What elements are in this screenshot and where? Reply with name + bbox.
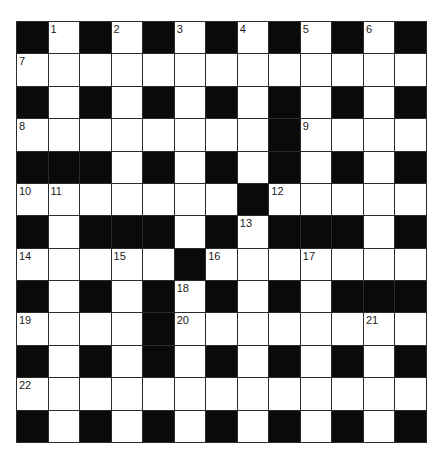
answer-cell[interactable]: 7 (17, 54, 48, 85)
answer-cell[interactable] (49, 346, 80, 377)
answer-cell[interactable]: 14 (17, 249, 48, 280)
answer-cell[interactable] (301, 346, 332, 377)
answer-cell[interactable]: 6 (364, 22, 395, 53)
answer-cell[interactable] (332, 313, 363, 344)
answer-cell[interactable] (49, 54, 80, 85)
answer-cell[interactable]: 16 (206, 249, 237, 280)
answer-cell[interactable] (143, 378, 174, 409)
answer-cell[interactable] (238, 87, 269, 118)
answer-cell[interactable] (112, 184, 143, 215)
answer-cell[interactable] (238, 119, 269, 150)
answer-cell[interactable] (80, 54, 111, 85)
answer-cell[interactable] (364, 54, 395, 85)
answer-cell[interactable] (238, 152, 269, 183)
answer-cell[interactable] (49, 411, 80, 442)
answer-cell[interactable]: 10 (17, 184, 48, 215)
answer-cell[interactable]: 11 (49, 184, 80, 215)
answer-cell[interactable] (364, 119, 395, 150)
answer-cell[interactable] (364, 87, 395, 118)
answer-cell[interactable] (364, 152, 395, 183)
answer-cell[interactable] (112, 378, 143, 409)
answer-cell[interactable] (206, 54, 237, 85)
answer-cell[interactable]: 4 (238, 22, 269, 53)
answer-cell[interactable] (301, 54, 332, 85)
answer-cell[interactable]: 18 (175, 281, 206, 312)
answer-cell[interactable]: 8 (17, 119, 48, 150)
answer-cell[interactable] (301, 87, 332, 118)
answer-cell[interactable] (301, 281, 332, 312)
answer-cell[interactable] (364, 184, 395, 215)
answer-cell[interactable]: 5 (301, 22, 332, 53)
answer-cell[interactable] (269, 378, 300, 409)
answer-cell[interactable]: 1 (49, 22, 80, 53)
answer-cell[interactable] (49, 378, 80, 409)
answer-cell[interactable] (269, 54, 300, 85)
answer-cell[interactable] (301, 184, 332, 215)
answer-cell[interactable] (175, 87, 206, 118)
answer-cell[interactable] (175, 216, 206, 247)
answer-cell[interactable] (206, 378, 237, 409)
answer-cell[interactable] (112, 152, 143, 183)
answer-cell[interactable] (238, 54, 269, 85)
answer-cell[interactable] (238, 249, 269, 280)
answer-cell[interactable] (332, 184, 363, 215)
answer-cell[interactable] (395, 54, 426, 85)
answer-cell[interactable] (301, 411, 332, 442)
answer-cell[interactable] (175, 378, 206, 409)
answer-cell[interactable] (395, 119, 426, 150)
answer-cell[interactable]: 15 (112, 249, 143, 280)
answer-cell[interactable] (49, 313, 80, 344)
answer-cell[interactable] (395, 184, 426, 215)
answer-cell[interactable] (80, 119, 111, 150)
answer-cell[interactable] (332, 119, 363, 150)
answer-cell[interactable] (80, 378, 111, 409)
answer-cell[interactable] (301, 378, 332, 409)
answer-cell[interactable] (332, 54, 363, 85)
answer-cell[interactable]: 13 (238, 216, 269, 247)
answer-cell[interactable] (238, 378, 269, 409)
answer-cell[interactable] (80, 249, 111, 280)
answer-cell[interactable] (364, 216, 395, 247)
answer-cell[interactable] (364, 249, 395, 280)
answer-cell[interactable] (143, 119, 174, 150)
answer-cell[interactable] (301, 152, 332, 183)
answer-cell[interactable]: 22 (17, 378, 48, 409)
answer-cell[interactable] (238, 313, 269, 344)
answer-cell[interactable]: 21 (364, 313, 395, 344)
answer-cell[interactable] (175, 184, 206, 215)
answer-cell[interactable]: 12 (269, 184, 300, 215)
answer-cell[interactable] (332, 249, 363, 280)
answer-cell[interactable] (206, 313, 237, 344)
answer-cell[interactable] (395, 378, 426, 409)
answer-cell[interactable] (143, 249, 174, 280)
answer-cell[interactable]: 20 (175, 313, 206, 344)
answer-cell[interactable] (175, 54, 206, 85)
answer-cell[interactable] (112, 313, 143, 344)
answer-cell[interactable] (238, 411, 269, 442)
answer-cell[interactable] (112, 54, 143, 85)
answer-cell[interactable] (143, 184, 174, 215)
answer-cell[interactable] (49, 249, 80, 280)
answer-cell[interactable] (206, 184, 237, 215)
answer-cell[interactable] (112, 119, 143, 150)
answer-cell[interactable] (143, 54, 174, 85)
answer-cell[interactable] (238, 346, 269, 377)
answer-cell[interactable]: 3 (175, 22, 206, 53)
answer-cell[interactable]: 19 (17, 313, 48, 344)
answer-cell[interactable] (332, 378, 363, 409)
answer-cell[interactable] (175, 411, 206, 442)
answer-cell[interactable] (49, 119, 80, 150)
answer-cell[interactable] (301, 313, 332, 344)
answer-cell[interactable] (112, 346, 143, 377)
answer-cell[interactable] (112, 87, 143, 118)
answer-cell[interactable] (395, 313, 426, 344)
answer-cell[interactable]: 17 (301, 249, 332, 280)
answer-cell[interactable] (175, 119, 206, 150)
answer-cell[interactable]: 9 (301, 119, 332, 150)
answer-cell[interactable] (80, 313, 111, 344)
answer-cell[interactable] (395, 249, 426, 280)
answer-cell[interactable] (364, 411, 395, 442)
answer-cell[interactable]: 2 (112, 22, 143, 53)
answer-cell[interactable] (269, 249, 300, 280)
answer-cell[interactable] (175, 152, 206, 183)
